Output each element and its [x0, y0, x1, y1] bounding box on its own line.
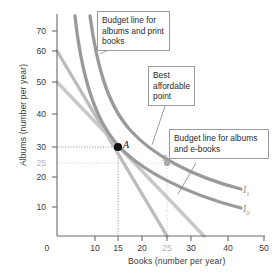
x-tick-label-40: 40 — [221, 243, 235, 253]
x-tick-label-0: 0 — [40, 243, 54, 253]
y-axis-ticks — [52, 31, 57, 207]
y-tick-label-50: 50 — [28, 77, 46, 87]
x-axis-ticks — [95, 236, 264, 241]
y-tick-label-40: 40 — [28, 109, 46, 119]
guide-lines — [57, 147, 167, 236]
y-axis-title: Albums (number per year) — [18, 40, 28, 190]
curve-label-i1: I1 — [243, 184, 250, 197]
y-tick-label-10: 10 — [28, 202, 46, 212]
leader-line-best-point — [152, 103, 166, 145]
x-tick-label-50: 50 — [257, 243, 271, 253]
x-tick-label-25: 25 — [160, 243, 174, 253]
consumer-choice-chart: Albums (number per year) Books (number p… — [0, 0, 273, 272]
x-axis-title: Books (number per year) — [128, 256, 225, 266]
curve-label-i1-subscript: 1 — [246, 190, 249, 197]
x-tick-label-10: 10 — [88, 243, 102, 253]
y-tick-label-60: 60 — [28, 46, 46, 56]
y-tick-label-30: 30 — [28, 142, 46, 152]
point-b-label: B — [162, 153, 167, 163]
callout-budget-line-print-books: Budget line for albums and print books — [97, 11, 170, 51]
point-a-marker — [114, 143, 122, 151]
curve-label-i0-subscript: 0 — [246, 209, 249, 216]
x-tick-label-30: 30 — [184, 243, 198, 253]
y-tick-label-70: 70 — [28, 26, 46, 36]
point-a-label: A — [123, 139, 129, 150]
y-tick-label-20: 20 — [28, 172, 46, 182]
x-tick-label-15: 15 — [111, 243, 125, 253]
callout-best-affordable-point: Best affordable point — [148, 66, 195, 106]
y-tick-label-25: 25 — [28, 158, 46, 168]
curve-label-i0: I0 — [243, 203, 250, 216]
callout-budget-line-ebooks: Budget line for albums and e-books — [169, 129, 269, 159]
x-tick-label-20: 20 — [135, 243, 149, 253]
